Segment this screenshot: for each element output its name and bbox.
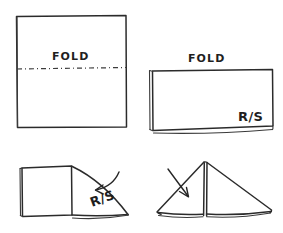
panel-2-fold-label: FOLD	[188, 52, 225, 65]
panel-3-flap-tip-thickness	[128, 214, 129, 215]
fold-instruction-diagram: FOLD FOLD R/S R/S	[0, 0, 283, 233]
panel-3-left-fold-edge	[20, 169, 21, 216]
fold-edge-top-join	[150, 71, 153, 72]
fold-edge-left	[150, 71, 151, 130]
panel-4-center-spine-left	[204, 162, 205, 215]
diagram-canvas: FOLD FOLD R/S R/S	[0, 0, 283, 233]
panel-1-fold-label: FOLD	[52, 50, 89, 63]
panel-2-right-side-label: R/S	[238, 109, 263, 124]
square-left-edge-accent	[17, 17, 18, 127]
panel-3-left-top-join	[20, 168, 22, 169]
